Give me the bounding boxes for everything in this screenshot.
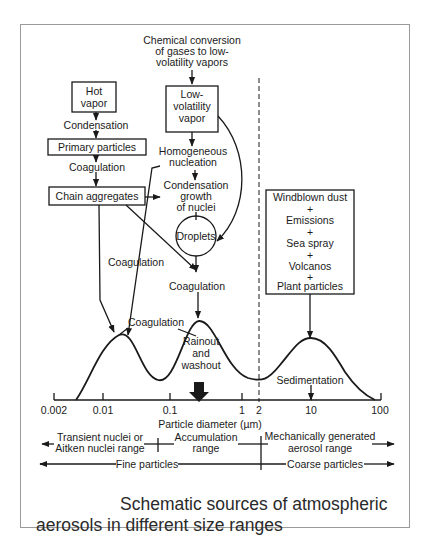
label-primary-particles: Primary particles (58, 141, 136, 153)
label-mechanical-2: aerosol range (288, 442, 352, 454)
rainout-arrow (189, 382, 209, 402)
label-accumulation-2: range (193, 442, 220, 454)
label-coagulation-left: Coagulation (108, 256, 164, 268)
label-coagulation-1: Coagulation (69, 161, 125, 173)
label-plant-particles: Plant particles (277, 280, 343, 292)
label-transient-2: Aitken nuclei range (55, 442, 144, 454)
label-chain-aggregates: Chain aggregates (56, 190, 139, 202)
label-windblown-dust: Windblown dust (273, 191, 347, 203)
label-and: and (192, 347, 210, 359)
label-emissions: Emissions (286, 214, 334, 226)
label-nucleation: nucleation (169, 156, 217, 168)
tick-0.002: 0.002 (41, 404, 67, 416)
figure-caption: Schematic sources of atmospheric aerosol… (36, 494, 406, 536)
label-hot: Hot (86, 85, 102, 97)
tick-0.1: 0.1 (163, 404, 178, 416)
tick-10: 10 (305, 404, 317, 416)
label-coarse-particles: Coarse particles (287, 458, 363, 470)
label-condensation-growth-3: of nuclei (176, 201, 215, 213)
label-vapor: vapor (81, 97, 108, 109)
label-mechanical-1: Mechanically generated (265, 430, 376, 442)
label-vapor-2: vapor (179, 112, 206, 124)
label-condensation: Condensation (64, 119, 129, 131)
label-coagulation-center: Coagulation (169, 280, 225, 292)
tick-100: 100 (371, 404, 389, 416)
label-low: Low- (181, 88, 204, 100)
label-volatility: volatility (173, 100, 211, 112)
label-sea-spray: Sea spray (286, 237, 334, 249)
label-rainout: Rainout (183, 335, 219, 347)
tick-2: 2 (256, 404, 262, 416)
label-droplets: Droplets (176, 230, 215, 242)
label-fine-particles: Fine particles (116, 458, 178, 470)
label-coagulation-peak: Coagulation (128, 316, 184, 328)
tick-1: 1 (239, 404, 245, 416)
label-top-source-3: volatility vapors (156, 56, 228, 68)
tick-0.01: 0.01 (93, 404, 114, 416)
axis-title: Particle diameter (µm) (158, 418, 262, 430)
label-sedimentation: Sedimentation (276, 374, 343, 386)
label-washout: washout (180, 359, 220, 371)
aerosol-diagram: Chemical conversion of gases to low- vol… (0, 0, 428, 558)
